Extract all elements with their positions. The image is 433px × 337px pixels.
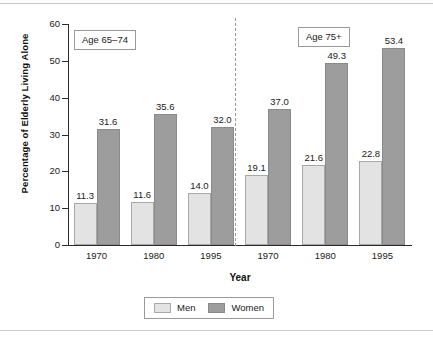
legend-swatch-women-icon xyxy=(208,303,225,313)
y-tick-label: 40 xyxy=(0,93,60,103)
y-tick-label: 30 xyxy=(0,130,60,140)
x-tick-label-1995: 1995 xyxy=(186,250,236,261)
x-tick-label-1980: 1980 xyxy=(129,250,179,261)
legend-item-women: Women xyxy=(208,302,264,313)
y-tick-label: 50 xyxy=(0,56,60,66)
bar-men-1995 xyxy=(188,193,211,245)
legend-label-men: Men xyxy=(177,302,195,313)
bar-men-1980 xyxy=(131,202,154,245)
x-tick-label-1995: 1995 xyxy=(357,250,407,261)
bar-men-1980 xyxy=(302,165,325,245)
x-tick-label-1980: 1980 xyxy=(300,250,350,261)
bar-men-1970 xyxy=(245,175,268,245)
x-tick-label-1970: 1970 xyxy=(243,250,293,261)
legend-label-women: Women xyxy=(231,302,264,313)
y-axis-title: Percentage of Elderly Living Alone xyxy=(19,4,30,224)
y-tick-label: 60 xyxy=(0,19,60,29)
bar-women-1995 xyxy=(382,48,405,245)
panel-label-age-65-74: Age 65–74 xyxy=(74,30,136,50)
bar-value-label: 53.4 xyxy=(376,35,411,46)
bar-value-label: 35.6 xyxy=(148,101,183,112)
bar-men-1995 xyxy=(359,161,382,245)
frame-bottom-divider xyxy=(0,330,433,331)
bar-women-1980 xyxy=(325,63,348,245)
chart-legend: Men Women xyxy=(144,297,274,319)
x-tick-label-1970: 1970 xyxy=(72,250,122,261)
bar-value-label: 31.6 xyxy=(91,116,126,127)
bar-women-1995 xyxy=(211,127,234,245)
bar-men-1970 xyxy=(74,203,97,245)
bar-women-1980 xyxy=(154,114,177,245)
panel-divider-dashed-line xyxy=(235,18,236,246)
legend-item-men: Men xyxy=(154,302,195,313)
y-tick-label: 0 xyxy=(0,240,60,250)
bar-women-1970 xyxy=(268,109,291,245)
x-axis-title: Year xyxy=(68,272,412,283)
x-axis-line xyxy=(68,245,412,246)
plot-area: 11.331.611.635.614.032.019.137.021.649.3… xyxy=(68,24,411,245)
y-tick-label: 10 xyxy=(0,203,60,213)
bar-value-label: 49.3 xyxy=(319,50,354,61)
frame-top-divider xyxy=(0,3,433,4)
bar-value-label: 37.0 xyxy=(262,96,297,107)
bar-women-1970 xyxy=(97,129,120,245)
y-tick-label: 20 xyxy=(0,166,60,176)
panel-label-age-75-plus: Age 75+ xyxy=(298,27,350,47)
chart-figure: Percentage of Elderly Living Alone 01020… xyxy=(0,0,433,337)
legend-swatch-men-icon xyxy=(154,303,171,313)
